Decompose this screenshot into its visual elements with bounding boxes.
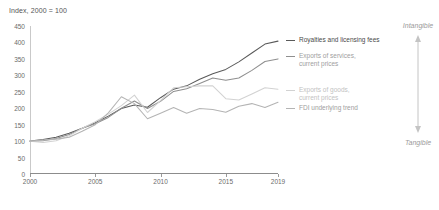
- chart-figure: Index, 2000 = 100 4504003503002502001501…: [0, 0, 439, 210]
- x-axis-tick-mark: [226, 174, 227, 177]
- x-axis-tick-label: 2019: [271, 178, 285, 185]
- x-axis-tick-label: 2000: [23, 178, 37, 185]
- legend-color-swatch: [286, 40, 295, 41]
- gridline: [30, 174, 278, 175]
- x-axis-tick-label: 2010: [153, 178, 167, 185]
- y-axis-tick-label: 450: [14, 23, 25, 30]
- y-axis-tick-label: 200: [14, 105, 25, 112]
- x-axis-tick-mark: [161, 174, 162, 177]
- x-axis-tick-mark: [30, 174, 31, 177]
- series-line: [30, 41, 278, 141]
- y-axis-tick-label: 250: [14, 88, 25, 95]
- y-axis-tick-label: 400: [14, 39, 25, 46]
- y-axis-tick-label: 350: [14, 55, 25, 62]
- y-axis-tick-label: 50: [18, 154, 25, 161]
- legend-item[interactable]: FDI underlying trend: [286, 104, 358, 112]
- legend-color-swatch: [286, 90, 295, 91]
- legend-color-swatch: [286, 108, 295, 109]
- legend-item-label: FDI underlying trend: [299, 104, 358, 112]
- y-axis-tick-label: 150: [14, 121, 25, 128]
- series-line: [30, 59, 278, 141]
- legend-item-label: Exports of goods, current prices: [299, 86, 350, 102]
- legend-item[interactable]: Exports of services, current prices: [286, 52, 356, 68]
- legend-item-label: Exports of services, current prices: [299, 52, 356, 68]
- chart-axis-title: Index, 2000 = 100: [9, 7, 67, 14]
- y-axis-tick-label: 100: [14, 138, 25, 145]
- x-axis-tick-mark: [278, 174, 279, 177]
- x-axis-tick-mark: [95, 174, 96, 177]
- tangibility-axis-annotation: Intangible Tangible: [398, 22, 438, 146]
- x-axis-tick-label: 2015: [219, 178, 233, 185]
- intangible-label: Intangible: [398, 22, 438, 29]
- series-line: [30, 97, 278, 141]
- series-lines: [30, 26, 278, 174]
- tangible-label: Tangible: [398, 139, 438, 146]
- legend-color-swatch: [286, 56, 295, 57]
- x-axis-tick-label: 2005: [88, 178, 102, 185]
- legend-item-label: Royalties and licensing fees: [299, 36, 380, 44]
- legend-item[interactable]: Royalties and licensing fees: [286, 36, 380, 44]
- y-axis-tick-label: 0: [21, 171, 25, 178]
- y-axis-tick-label: 300: [14, 72, 25, 79]
- double-headed-arrow-icon: [412, 35, 424, 133]
- plot-area: 450400350300250200150100500 200020052010…: [30, 26, 278, 174]
- legend-item[interactable]: Exports of goods, current prices: [286, 86, 350, 102]
